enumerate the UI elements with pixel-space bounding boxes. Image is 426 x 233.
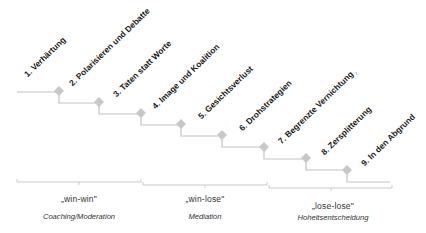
phase-method: Hoheitsentscheidung	[263, 213, 403, 222]
phase-method: Mediation	[135, 212, 275, 221]
diamond-icon	[94, 97, 104, 107]
bracket-lose-lose	[269, 185, 392, 191]
diamond-icon	[301, 153, 311, 163]
phase-method: Coaching/Moderation	[9, 212, 149, 221]
diamond-icon	[176, 119, 186, 129]
phase-brackets	[17, 179, 392, 191]
phase-type: „lose-lose"	[263, 201, 403, 211]
diamond-icon	[342, 165, 352, 175]
phase-win-win: „win-win" Coaching/Moderation	[9, 194, 149, 221]
diamond-icon	[259, 142, 269, 152]
phase-lose-lose: „lose-lose" Hoheitsentscheidung	[263, 201, 403, 222]
phase-type: „win-win"	[9, 194, 149, 204]
stage-markers	[54, 86, 352, 175]
phase-type: „win-lose"	[135, 194, 275, 204]
bracket-win-lose	[143, 182, 267, 188]
diamond-icon	[136, 108, 146, 118]
conflict-escalation-diagram: 1. Verhärtung 2. Polarisieren und Debatt…	[0, 0, 426, 233]
bracket-win-win	[17, 179, 141, 185]
diamond-icon	[54, 86, 64, 96]
phase-win-lose: „win-lose" Mediation	[135, 194, 275, 221]
diamond-icon	[217, 130, 227, 140]
